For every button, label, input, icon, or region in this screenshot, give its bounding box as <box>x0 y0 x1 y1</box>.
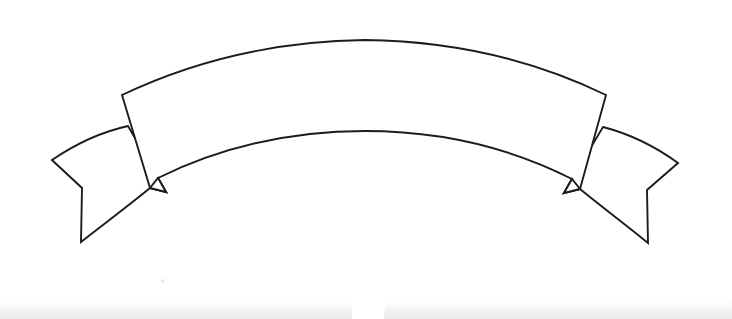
banner-artwork-canvas <box>0 0 732 319</box>
center-arched-band <box>122 40 606 193</box>
ribbon-banner-illustration <box>0 0 732 319</box>
